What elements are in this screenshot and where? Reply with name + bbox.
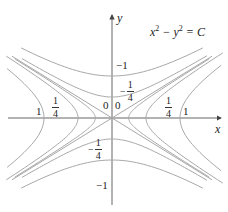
level-label-bottom-minus-1: −1 <box>96 180 108 191</box>
level-curves-diagram: x2 − y2 = C y x −1 −1 0 0 1 1 14 14 − 14… <box>0 0 228 212</box>
level-label-zero-left: 0 <box>103 100 109 111</box>
level-label-right-quarter: 14 <box>165 96 172 119</box>
level-label-bottom-minus-quarter: − 14 <box>88 138 102 161</box>
level-label-right-1: 1 <box>183 106 189 117</box>
level-label-top-minus-quarter: − 14 <box>120 80 134 103</box>
y-axis-label: y <box>117 12 122 24</box>
level-label-top-minus-1: −1 <box>116 60 128 71</box>
level-label-left-quarter: 14 <box>52 96 59 119</box>
x-axis-label: x <box>215 123 220 135</box>
equation-label: x2 − y2 = C <box>150 24 205 40</box>
level-label-left-1: 1 <box>36 106 42 117</box>
